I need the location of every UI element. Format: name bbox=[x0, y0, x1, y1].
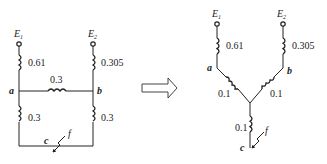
reactance-e2-b: 0.305 bbox=[101, 57, 124, 68]
left-circuit-delta: E1 E2 0.61 0.305 0.3 a b 0.3 0.3 c f bbox=[9, 28, 124, 152]
e1-label-star: E1 bbox=[211, 8, 221, 20]
fault-lightning-icon bbox=[53, 136, 65, 152]
transform-arrow bbox=[142, 78, 177, 98]
reactance-a-star: 0.1 bbox=[218, 88, 231, 99]
node-b-star-label: b bbox=[287, 65, 292, 76]
fault-lightning-star-icon bbox=[252, 132, 264, 148]
e2-label-star: E2 bbox=[276, 8, 286, 20]
reactance-b-c: 0.3 bbox=[101, 112, 114, 123]
inductor-a-b-icon bbox=[48, 89, 66, 91]
node-c-label: c bbox=[44, 135, 49, 146]
node-b-label: b bbox=[97, 85, 102, 96]
e1-terminal bbox=[17, 42, 21, 46]
inductor-e2-b-icon bbox=[93, 55, 95, 70]
reactance-b-star: 0.1 bbox=[270, 88, 283, 99]
reactance-a-b: 0.3 bbox=[50, 74, 63, 85]
right-circuit-star: E1 E2 0.61 0.305 a b 0.1 0.1 0.1 c f bbox=[207, 8, 315, 153]
fault-star-label: f bbox=[265, 125, 269, 136]
e1-terminal-star bbox=[215, 22, 219, 26]
node-c-star-label: c bbox=[240, 142, 245, 153]
reactance-e2-b-star: 0.305 bbox=[292, 40, 315, 51]
fault-label: f bbox=[68, 128, 72, 139]
inductor-e2-b-star-icon bbox=[283, 38, 285, 54]
inductor-e1-a-icon bbox=[19, 55, 21, 70]
reactance-e1-a: 0.61 bbox=[28, 57, 46, 68]
delta-to-star-diagram: E1 E2 0.61 0.305 0.3 a b 0.3 0.3 c f bbox=[0, 0, 327, 164]
inductor-e1-a-star-icon bbox=[217, 38, 219, 54]
inductor-b-c-icon bbox=[93, 106, 95, 121]
e2-terminal bbox=[91, 42, 95, 46]
reactance-star-c: 0.1 bbox=[235, 122, 248, 133]
reactance-e1-a-star: 0.61 bbox=[226, 40, 244, 51]
e2-terminal-star bbox=[281, 22, 285, 26]
node-a-star-label: a bbox=[207, 62, 212, 73]
node-a-label: a bbox=[9, 85, 14, 96]
inductor-star-c-icon bbox=[250, 116, 252, 132]
e1-label: E1 bbox=[13, 28, 23, 40]
reactance-a-c: 0.3 bbox=[28, 112, 41, 123]
inductor-a-c-icon bbox=[19, 106, 21, 121]
e2-label: E2 bbox=[87, 28, 97, 40]
right-arrow-icon bbox=[142, 78, 177, 98]
